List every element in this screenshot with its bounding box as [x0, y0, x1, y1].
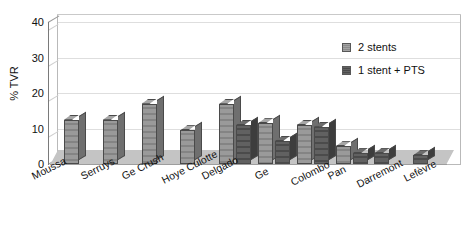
- bar-colombo-2-stents: [297, 125, 312, 164]
- legend: 2 stents 1 stent + PTS: [342, 42, 425, 88]
- legend-swatch-1-stent-pts: [342, 66, 351, 75]
- legend-label-1-stent-pts: 1 stent + PTS: [358, 65, 425, 76]
- bars-layer: [0, 0, 472, 232]
- legend-swatch-2-stents: [342, 43, 351, 52]
- bar-pan-1-stent-pts: [353, 153, 368, 164]
- bar-front-face: [236, 125, 251, 164]
- bar-pan-2-stents: [336, 146, 351, 164]
- bar-front-face: [336, 146, 351, 164]
- legend-item-2-stents: 2 stents: [342, 42, 425, 53]
- legend-item-1-stent-pts: 1 stent + PTS: [342, 65, 425, 76]
- bar-front-face: [64, 120, 79, 164]
- bar-ge-1-stent-pts: [275, 141, 290, 164]
- bar-side-face: [79, 111, 86, 160]
- bar-chart: 010203040 % TVR MoussaSerruysGe CrushHoy…: [0, 0, 472, 232]
- bar-front-face: [275, 141, 290, 164]
- bar-front-face: [258, 123, 273, 164]
- bar-moussa-2-stents: [64, 120, 79, 164]
- bar-front-face: [297, 125, 312, 164]
- bar-side-face: [118, 111, 125, 160]
- bar-delgado-1-stent-pts: [236, 125, 251, 164]
- bar-ge-2-stents: [258, 123, 273, 164]
- legend-label-2-stents: 2 stents: [358, 42, 397, 53]
- bar-front-face: [353, 153, 368, 164]
